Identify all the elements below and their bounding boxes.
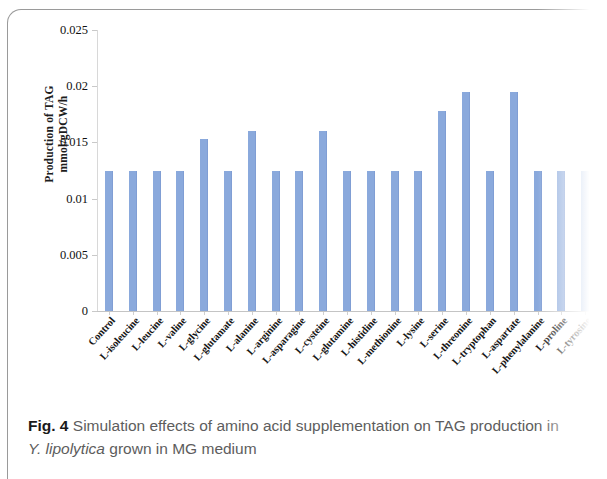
x-label-slot: L-tyrosine bbox=[573, 313, 597, 403]
x-label-slot: L-valine bbox=[168, 313, 192, 403]
x-label-slot: L-glutamate bbox=[216, 313, 240, 403]
bar[interactable] bbox=[224, 171, 232, 312]
bar-slot bbox=[264, 30, 288, 311]
x-label-slot: L-proline bbox=[549, 313, 573, 403]
bar[interactable] bbox=[414, 171, 422, 312]
y-axis-tick-mark bbox=[92, 311, 97, 312]
bar-slot bbox=[121, 30, 145, 311]
bar[interactable] bbox=[105, 171, 113, 312]
bar-slot bbox=[240, 30, 264, 311]
y-axis-tick-mark bbox=[92, 86, 97, 87]
bar-slot bbox=[311, 30, 335, 311]
bar-slot bbox=[192, 30, 216, 311]
bar[interactable] bbox=[486, 171, 494, 312]
bar-slot bbox=[168, 30, 192, 311]
bar[interactable] bbox=[438, 111, 446, 311]
y-axis-tick-label: 0.025 bbox=[44, 23, 88, 38]
x-label-slot: L-asparagine bbox=[288, 313, 312, 403]
bar-slot bbox=[288, 30, 312, 311]
bar-slot bbox=[145, 30, 169, 311]
bar[interactable] bbox=[176, 171, 184, 312]
bar-slot bbox=[430, 30, 454, 311]
figure-caption: Fig. 4 Simulation effects of amino acid … bbox=[28, 414, 573, 460]
bar[interactable] bbox=[534, 171, 542, 312]
bar-slot bbox=[216, 30, 240, 311]
bar[interactable] bbox=[462, 92, 470, 311]
x-label-slot: L-leucine bbox=[145, 313, 169, 403]
bar-slot bbox=[97, 30, 121, 311]
bar[interactable] bbox=[129, 171, 137, 312]
bar-slot bbox=[526, 30, 550, 311]
y-axis-tick-mark bbox=[92, 30, 97, 31]
caption-text-part2: grown in MG medium bbox=[109, 440, 256, 457]
bar[interactable] bbox=[200, 139, 208, 311]
y-axis-tick-label: 0.01 bbox=[44, 191, 88, 206]
y-axis-tick-label: 0.02 bbox=[44, 79, 88, 94]
x-label-slot: L-phenylalanine bbox=[526, 313, 550, 403]
bar[interactable] bbox=[510, 92, 518, 311]
x-label-slot: L-methionine bbox=[383, 313, 407, 403]
bar-slot bbox=[573, 30, 597, 311]
x-axis-tick-labels: ControlL-isoleucineL-leucineL-valineL-gl… bbox=[97, 313, 597, 403]
y-axis-tick-mark bbox=[92, 255, 97, 256]
bar-slot bbox=[478, 30, 502, 311]
bar[interactable] bbox=[272, 171, 280, 312]
bar-slot bbox=[359, 30, 383, 311]
caption-species-name: Y. lipolytica bbox=[28, 440, 105, 457]
y-axis-tick-label: 0 bbox=[44, 304, 88, 319]
y-axis-tick-label: 0.015 bbox=[44, 135, 88, 150]
bar-slot bbox=[549, 30, 573, 311]
bar[interactable] bbox=[295, 171, 303, 312]
bar-slot bbox=[335, 30, 359, 311]
bar[interactable] bbox=[343, 171, 351, 312]
bar-series bbox=[97, 30, 597, 311]
caption-text-part1: Simulation effects of amino acid supplem… bbox=[73, 417, 559, 434]
x-label-slot: L-lysine bbox=[407, 313, 431, 403]
bar[interactable] bbox=[319, 131, 327, 311]
figure-number-label: Fig. 4 bbox=[28, 417, 68, 434]
y-axis-tick-label: 0.005 bbox=[44, 247, 88, 262]
x-label-slot: L-isoleucine bbox=[121, 313, 145, 403]
bar-chart: Production of TAG mmol/gDCW/h 0.0250.020… bbox=[0, 0, 607, 400]
plot-area bbox=[97, 30, 597, 312]
bar[interactable] bbox=[581, 171, 589, 312]
bar-slot bbox=[407, 30, 431, 311]
y-axis-tick-mark bbox=[92, 199, 97, 200]
y-axis-tick-mark bbox=[92, 142, 97, 143]
bar[interactable] bbox=[391, 171, 399, 312]
bar[interactable] bbox=[367, 171, 375, 312]
bar-slot bbox=[502, 30, 526, 311]
bar[interactable] bbox=[557, 171, 565, 312]
bar-slot bbox=[454, 30, 478, 311]
bar[interactable] bbox=[248, 131, 256, 311]
bar[interactable] bbox=[153, 171, 161, 312]
figure-container: Production of TAG mmol/gDCW/h 0.0250.020… bbox=[0, 0, 607, 479]
y-axis-tick-labels: 0.0250.020.0150.010.0050 bbox=[44, 0, 88, 400]
bar-slot bbox=[383, 30, 407, 311]
